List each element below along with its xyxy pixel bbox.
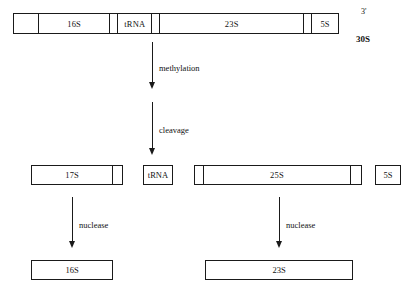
precursor-segment-23s: 23S xyxy=(160,14,304,33)
intermediate-segment-17s: 17S xyxy=(32,166,113,184)
cleavage-label: cleavage xyxy=(159,125,189,135)
precursor-segment-spacer-a xyxy=(110,14,118,33)
intermediate-segment-25s: 25S xyxy=(204,166,351,184)
precursor-segment-trna: tRNA xyxy=(118,14,152,33)
intermediate-box-5s: 5S xyxy=(375,165,401,185)
precursor-segment-5s: 5S xyxy=(312,14,338,33)
intermediate-segment-17s-spacer xyxy=(113,166,122,184)
precursor-segment-spacer-5prime xyxy=(14,14,39,33)
nuclease-arrow-left xyxy=(68,197,77,248)
methylation-label: methylation xyxy=(159,63,200,73)
intermediate-box-trna: tRNA xyxy=(143,165,173,185)
product-box-23s: 23S xyxy=(205,260,353,280)
intermediate-bar-25s: 25S xyxy=(194,165,362,185)
precursor-bar-30s: 16S tRNA 23S 5S xyxy=(13,13,339,34)
methylation-arrow xyxy=(148,42,157,89)
intermediate-bar-17s: 17S xyxy=(31,165,123,185)
nuclease-label-right: nuclease xyxy=(286,220,315,230)
precursor-segment-16s: 16S xyxy=(39,14,111,33)
precursor-segment-spacer-c xyxy=(304,14,312,33)
intermediate-segment-25s-spacer-left xyxy=(195,166,204,184)
cleavage-arrow xyxy=(148,102,157,155)
precursor-segment-spacer-b xyxy=(152,14,160,33)
precursor-size-label: 30S xyxy=(356,34,370,44)
rrna-processing-diagram: 16S tRNA 23S 5S 3' 30S methylation cleav… xyxy=(0,0,408,288)
nuclease-label-left: nuclease xyxy=(79,220,108,230)
intermediate-segment-25s-spacer-right xyxy=(351,166,361,184)
nuclease-arrow-right xyxy=(275,197,284,248)
three-prime-label: 3' xyxy=(361,7,366,16)
product-box-16s: 16S xyxy=(31,260,113,280)
